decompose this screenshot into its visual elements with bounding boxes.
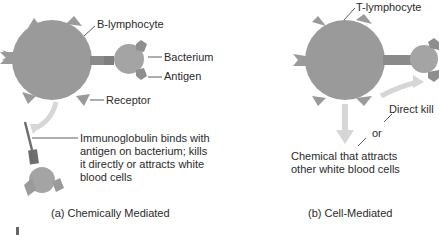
figure-marker — [16, 227, 19, 235]
or-label: or — [372, 127, 382, 140]
antigen-label: Antigen — [164, 70, 201, 83]
immunoglobulin-line-4: blood cells — [80, 171, 132, 184]
bacterium-label: Bacterium — [164, 51, 214, 64]
t-lymphocyte-label: T-lymphocyte — [356, 1, 421, 14]
b-lymphocyte-label: B-lymphocyte — [97, 18, 164, 31]
bacterium-b — [410, 38, 439, 82]
chemical-line-2: other white blood cells — [291, 163, 400, 176]
immunoglobulin-line-2: antigen on bacterium; kills — [80, 145, 207, 158]
immunoglobulin-line-1: Immunoglobulin binds with — [80, 132, 210, 145]
immunoglobulin-complex — [24, 122, 64, 196]
direct-kill-label: Direct kill — [389, 103, 434, 116]
diagram-canvas — [0, 0, 439, 235]
immunoglobulin-line-3: it directly or attracts white — [80, 158, 204, 171]
caption-a: (a) Chemically Mediated — [51, 207, 170, 219]
t-lymphocyte-cell — [293, 14, 413, 106]
bacterium-a — [114, 40, 147, 80]
chemical-line-1: Chemical that attracts — [291, 150, 397, 163]
receptor-label: Receptor — [106, 94, 151, 107]
caption-b: (b) Cell-Mediated — [308, 207, 392, 219]
